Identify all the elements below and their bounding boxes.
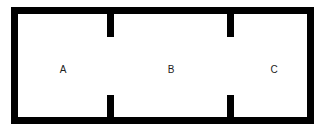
divider-bc-bottom-stub	[227, 95, 234, 117]
outer-wall-left	[11, 7, 18, 124]
room-label-a: A	[60, 65, 67, 75]
room-label-b: B	[168, 65, 175, 75]
divider-ab-top-stub	[107, 14, 114, 37]
divider-ab-bottom-stub	[107, 95, 114, 117]
room-label-c: C	[270, 65, 277, 75]
outer-wall-right	[307, 7, 314, 124]
divider-bc-top-stub	[227, 14, 234, 37]
floor-plan: A B C	[0, 0, 326, 132]
outer-wall-bottom	[11, 117, 314, 124]
outer-wall-top	[11, 7, 314, 14]
